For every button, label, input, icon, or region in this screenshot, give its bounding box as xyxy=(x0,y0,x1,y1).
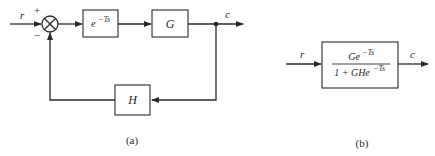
feedback-block-h: H xyxy=(115,85,150,115)
input-label-r: r xyxy=(20,9,25,21)
delay-base: e xyxy=(91,18,96,29)
caption-b: (b) xyxy=(356,137,369,150)
numerator-exponent: −Ts xyxy=(362,48,374,57)
feedback-label: H xyxy=(127,93,138,107)
output-label-c: c xyxy=(410,48,415,60)
delay-block: e −Ts xyxy=(83,10,118,37)
plant-block-g: G xyxy=(152,10,188,37)
diagram-b: r Ge −Ts 1 + GHe −Ts c (b) xyxy=(286,42,428,150)
minus-sign: − xyxy=(34,29,40,41)
output-label-c: c xyxy=(225,8,230,20)
feedback-line-left xyxy=(50,33,115,100)
plus-sign: + xyxy=(34,4,40,16)
delay-exponent: −Ts xyxy=(98,15,110,24)
diagram-a: r + − e −Ts G c H xyxy=(10,4,243,147)
numerator-base: Ge xyxy=(348,51,360,62)
caption-a: (a) xyxy=(126,134,139,147)
input-label-r: r xyxy=(300,48,305,60)
summing-junction-icon xyxy=(42,16,58,32)
plant-label: G xyxy=(166,17,175,31)
block-diagrams: r + − e −Ts G c H xyxy=(0,0,435,156)
denominator-exponent: −Ts xyxy=(373,64,385,73)
denominator-base: 1 + GHe xyxy=(334,67,370,78)
closed-loop-transfer-block: Ge −Ts 1 + GHe −Ts xyxy=(322,42,398,88)
